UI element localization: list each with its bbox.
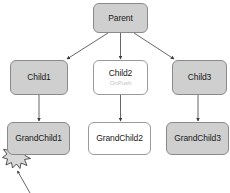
node-grandchild3-label: GrandChild3 (174, 134, 221, 143)
node-grandchild1-label: GrandChild1 (15, 134, 62, 143)
node-child3[interactable]: Child3 (172, 60, 227, 95)
node-child2-sublabel: OnPush (110, 80, 132, 86)
node-parent[interactable]: Parent (93, 3, 148, 33)
node-grandchild2[interactable]: GrandChild2 (88, 122, 151, 155)
node-child1[interactable]: Child1 (10, 60, 68, 95)
node-child2-label: Child2 (109, 69, 133, 78)
edge-parent-child1 (67, 33, 108, 59)
component-tree-diagram: Parent Child1 Child2 OnPush Child3 Grand… (0, 0, 230, 193)
node-child1-label: Child1 (27, 73, 51, 82)
node-parent-label: Parent (108, 14, 132, 23)
node-grandchild2-label: GrandChild2 (96, 134, 143, 143)
node-child2[interactable]: Child2 OnPush (93, 60, 148, 95)
node-grandchild1[interactable]: GrandChild1 (7, 122, 70, 155)
edge-parent-child3 (134, 33, 174, 59)
node-child3-label: Child3 (188, 73, 212, 82)
annotation-arrow-to-burst (18, 171, 31, 193)
node-grandchild3[interactable]: GrandChild3 (166, 122, 229, 155)
